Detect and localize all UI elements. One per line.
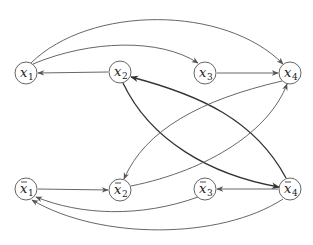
edge-x2-to-nx4: [123, 83, 279, 187]
graph-diagram: x 1 x 2 x 3 x 4 x 1 x 2 x 3 x 4: [0, 0, 313, 245]
edge-nx1-to-nx2: [38, 189, 108, 190]
node-x3: x 3: [194, 62, 216, 84]
edge-x4-to-nx2: [124, 81, 282, 179]
node-x1: x 1: [15, 62, 37, 84]
node-subscript: 4: [292, 188, 298, 198]
node-subscript: 1: [28, 188, 34, 198]
edge-x1-to-x3: [33, 45, 198, 64]
node-label: x: [284, 65, 292, 80]
node-subscript: 2: [122, 71, 128, 81]
node-subscript: 1: [28, 72, 34, 82]
node-not-x2: x 2: [109, 179, 131, 201]
node-label: x: [199, 65, 207, 80]
node-not-x4: x 4: [279, 178, 301, 200]
edge-nx4-to-nx1: [32, 199, 283, 230]
node-label: x: [20, 181, 28, 196]
node-label: x: [20, 65, 28, 80]
node-label: x: [199, 181, 207, 196]
node-subscript: 4: [292, 72, 298, 82]
node-not-x3: x 3: [194, 178, 216, 200]
edge-x1-to-x4: [31, 20, 283, 64]
edge-x2-to-x1: [38, 72, 108, 73]
edge-nx2-to-x4: [131, 84, 287, 186]
node-not-x1: x 1: [15, 178, 37, 200]
node-x4: x 4: [279, 62, 301, 84]
node-subscript: 2: [122, 189, 128, 199]
node-label: x: [284, 181, 292, 196]
node-subscript: 3: [207, 72, 213, 82]
node-label: x: [114, 182, 122, 197]
node-label: x: [114, 64, 122, 79]
node-x2: x 2: [109, 61, 131, 83]
node-subscript: 3: [207, 188, 213, 198]
